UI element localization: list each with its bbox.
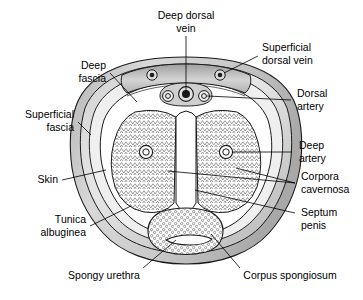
superficial-dorsal-vein-left bbox=[147, 70, 157, 80]
label-tunica-albuginea-line2: albuginea bbox=[40, 226, 86, 238]
label-superficial-fascia-line2: fascia bbox=[47, 121, 75, 133]
superficial-dorsal-vein-right bbox=[215, 70, 225, 80]
label-corpora-cavernosa-line1: Corpora bbox=[301, 170, 339, 182]
label-deep-fascia-line1: Deep bbox=[81, 59, 106, 71]
label-spongy-urethra: Spongy urethra bbox=[68, 269, 140, 281]
corpus-cavernosum-right bbox=[196, 110, 261, 212]
septum-penis bbox=[176, 111, 196, 214]
corpora-cavernosa-group bbox=[111, 110, 261, 214]
label-deep-dorsal-vein-line2: vein bbox=[176, 22, 195, 34]
corpus-spongiosum bbox=[148, 208, 223, 255]
label-superficial-dorsal-vein-line2: dorsal vein bbox=[262, 54, 313, 66]
label-tunica-albuginea-line1: Tunica bbox=[55, 213, 86, 225]
deep-artery-left bbox=[139, 145, 152, 158]
label-superficial-fascia-line1: Superficial bbox=[25, 108, 74, 120]
label-corpora-cavernosa-line2: cavernosa bbox=[301, 183, 350, 195]
label-superficial-dorsal-vein-line1: Superficial bbox=[262, 41, 311, 53]
label-corpus-spongiosum: Corpus spongiosum bbox=[243, 269, 337, 281]
label-dorsal-artery-line2: artery bbox=[297, 100, 325, 112]
label-deep-artery-line1: Deep bbox=[299, 139, 324, 151]
deep-artery-right bbox=[219, 145, 232, 158]
label-skin: Skin bbox=[38, 173, 59, 185]
corpus-cavernosum-left bbox=[111, 110, 176, 212]
label-septum-penis-line1: Septum bbox=[301, 206, 337, 218]
corpus-spongiosum-group bbox=[148, 208, 223, 255]
dorsal-artery-left bbox=[163, 91, 174, 102]
label-deep-artery-line2: artery bbox=[299, 152, 327, 164]
penis-cross-section-diagram: Deep dorsal vein Superficial dorsal vein… bbox=[0, 0, 363, 300]
label-dorsal-artery-line1: Dorsal bbox=[297, 87, 327, 99]
label-deep-dorsal-vein-line1: Deep dorsal bbox=[158, 9, 215, 21]
label-deep-fascia-line2: fascia bbox=[79, 72, 107, 84]
label-septum-penis-line2: penis bbox=[301, 219, 326, 231]
